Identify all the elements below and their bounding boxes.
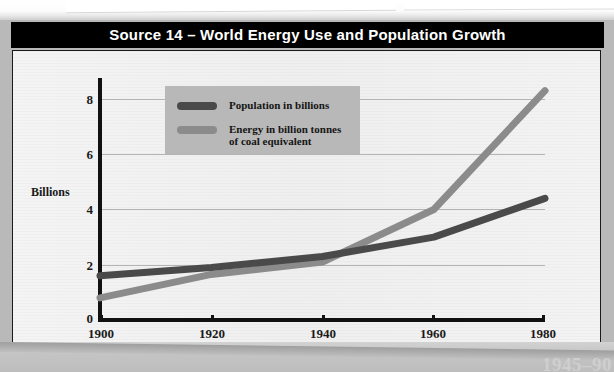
page-edge-bottom-artifact: 1945–90: [0, 342, 614, 372]
page-edge-top-artifact: [0, 0, 614, 20]
chart-legend: Population in billions Energy in billion…: [165, 86, 360, 154]
footer-note-text: 1945–90: [542, 354, 612, 372]
legend-item-population: Population in billions: [177, 99, 329, 111]
figure-container: Source 14 – World Energy Use and Populat…: [11, 22, 604, 347]
page-shadow-band: [0, 342, 614, 361]
paper-sheet-edge-right: [404, 0, 614, 11]
legend-label-population: Population in billions: [229, 99, 329, 111]
legend-label-energy: Energy in billion tonnes of coal equival…: [229, 123, 341, 147]
legend-item-energy: Energy in billion tonnes of coal equival…: [177, 123, 341, 147]
legend-swatch-population: [177, 102, 217, 110]
legend-swatch-energy: [177, 126, 217, 134]
paper-sheet-edge-left: [66, 0, 396, 13]
screenshot-root: Source 14 – World Energy Use and Populat…: [0, 0, 614, 372]
series-plot-area: [11, 22, 604, 347]
